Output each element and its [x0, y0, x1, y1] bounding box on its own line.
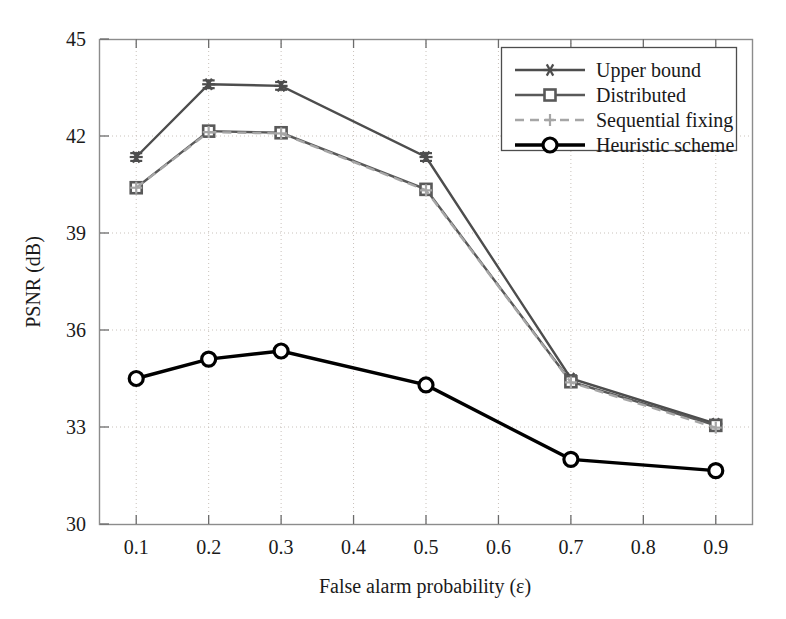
- series-line: [136, 351, 716, 471]
- y-tick-label: 42: [66, 125, 86, 147]
- y-tick-label: 39: [66, 222, 86, 244]
- marker-circle: [564, 452, 578, 466]
- marker-circle: [543, 138, 557, 152]
- x-tick-label: 0.3: [269, 536, 294, 558]
- x-tick-label: 0.4: [341, 536, 366, 558]
- x-tick-label: 0.2: [196, 536, 221, 558]
- y-axis-title: PSNR (dB): [22, 236, 45, 328]
- y-axis-tick-labels: 303336394245: [66, 28, 86, 535]
- x-tick-label: 0.5: [414, 536, 439, 558]
- legend-label: Heuristic scheme: [596, 134, 734, 156]
- legend-entry-heuristic-scheme[interactable]: Heuristic scheme: [515, 134, 734, 156]
- legend-label: Sequential fixing: [596, 109, 733, 132]
- x-axis-tick-labels: 0.10.20.30.40.50.60.70.80.9: [124, 536, 729, 558]
- y-tick-label: 36: [66, 319, 86, 341]
- figure-container: 303336394245 0.10.20.30.40.50.60.70.80.9…: [0, 0, 786, 619]
- marker-circle: [709, 464, 723, 478]
- marker-circle: [202, 352, 216, 366]
- y-tick-label: 33: [66, 416, 86, 438]
- x-tick-label: 0.8: [631, 536, 656, 558]
- marker-circle: [274, 344, 288, 358]
- marker-circle: [419, 378, 433, 392]
- y-tick-label: 45: [66, 28, 86, 50]
- marker-circle: [129, 372, 143, 386]
- x-tick-label: 0.7: [558, 536, 583, 558]
- chart-legend[interactable]: Upper boundDistributedSequential fixingH…: [502, 48, 737, 157]
- marker-square: [545, 90, 556, 101]
- x-tick-label: 0.1: [124, 536, 149, 558]
- x-tick-label: 0.6: [486, 536, 511, 558]
- series-heuristic-scheme: [129, 344, 723, 478]
- legend-label: Upper bound: [596, 59, 701, 82]
- x-axis-title: False alarm probability (ε): [319, 575, 531, 598]
- psnr-line-chart: 303336394245 0.10.20.30.40.50.60.70.80.9…: [0, 0, 786, 619]
- x-tick-label: 0.9: [703, 536, 728, 558]
- legend-label: Distributed: [596, 84, 686, 106]
- y-tick-label: 30: [66, 513, 86, 535]
